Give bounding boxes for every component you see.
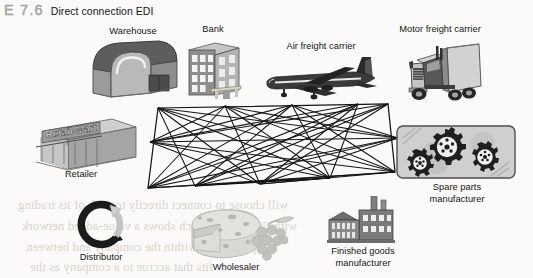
entity-air-freight-carrier[interactable]: Air freight carrier	[251, 41, 391, 107]
entity-motor-freight-carrier[interactable]: Motor freight carrier	[375, 24, 505, 106]
airplane-icon	[261, 55, 383, 105]
entity-label-bank: Bank	[148, 24, 278, 36]
figure-caption: E 7.6 Direct connection EDI	[4, 2, 153, 18]
entity-label-air-freight-carrier: Air freight carrier	[256, 41, 386, 53]
entity-label-wholesaler: Wholesaler	[171, 262, 301, 274]
bank-building-icon	[185, 38, 243, 100]
entity-bank[interactable]: Bank	[163, 24, 263, 102]
circular-arrows-icon	[76, 200, 128, 252]
entity-finished-goods-manufacturer[interactable]: Finished goods manufacturer	[303, 196, 423, 278]
entity-distributor[interactable]: Distributor	[41, 200, 161, 270]
gears-panel-icon	[395, 124, 517, 182]
cheese-grapes-icon	[176, 204, 296, 266]
entity-spare-parts-manufacturer[interactable]: Spare parts manufacturer	[392, 124, 522, 208]
entity-retailer[interactable]: Retail-Mart Retailer	[16, 117, 146, 189]
mesh-links	[148, 104, 398, 188]
entity-label-distributor: Distributor	[36, 252, 166, 264]
entity-label-finished-goods-manufacturer: Finished goods manufacturer	[298, 246, 428, 269]
entity-wholesaler[interactable]: Wholesaler	[171, 204, 301, 278]
figure-number: E 7.6	[4, 2, 44, 18]
figure-title: Direct connection EDI	[51, 5, 154, 17]
mesh-network-diagram	[140, 100, 402, 198]
entity-label-motor-freight-carrier: Motor freight carrier	[375, 24, 505, 36]
entity-label-spare-parts-manufacturer: Spare parts manufacturer	[392, 182, 522, 205]
retail-store-icon: Retail-Mart	[28, 117, 138, 175]
figure-direct-connection-edi: will choose to connect directly to each …	[0, 0, 533, 278]
semi-truck-icon	[403, 38, 485, 104]
entity-label-retailer: Retailer	[16, 169, 146, 181]
